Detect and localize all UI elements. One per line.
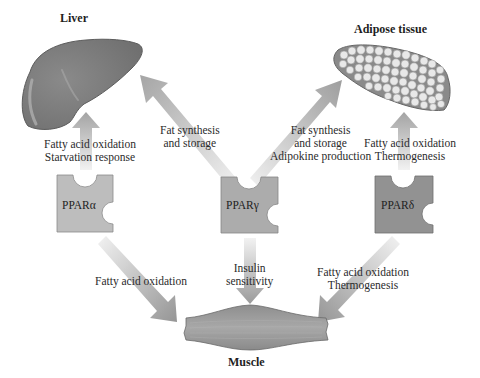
effect-line: Starvation response <box>44 151 136 164</box>
effect-gamma-to-adipose: Fat synthesis and storage Adipokine prod… <box>270 124 371 163</box>
effect-alpha-to-liver: Fatty acid oxidation Starvation response <box>44 138 136 164</box>
effect-gamma-to-muscle: Insulin sensitivity <box>226 262 273 288</box>
effect-line: Fat synthesis <box>270 124 371 137</box>
effect-alpha-to-muscle: Fatty acid oxidation <box>95 275 187 288</box>
effect-line: Thermogenesis <box>364 150 456 163</box>
effect-line: Thermogenesis <box>317 279 409 292</box>
muscle-illustration <box>184 305 328 350</box>
effect-line: Fatty acid oxidation <box>95 275 187 288</box>
effect-line: and storage <box>270 137 371 150</box>
liver-title: Liver <box>60 11 88 26</box>
muscle-title: Muscle <box>228 355 265 370</box>
liver-illustration <box>22 39 142 129</box>
effect-line: sensitivity <box>226 275 273 288</box>
adipose-title: Adipose tissue <box>354 22 427 37</box>
ppar-tissue-diagram: Liver Adipose tissue Muscle PPARα PPARγ … <box>0 0 480 378</box>
effect-line: Fatty acid oxidation <box>44 138 136 151</box>
adipose-tissue-illustration <box>334 45 450 111</box>
ppar-gamma-label: PPARγ <box>226 199 259 211</box>
effect-delta-to-adipose: Fatty acid oxidation Thermogenesis <box>364 137 456 163</box>
effect-delta-to-muscle: Fatty acid oxidation Thermogenesis <box>317 266 409 292</box>
effect-line: and storage <box>160 137 220 150</box>
effect-line: Fat synthesis <box>160 124 220 137</box>
effect-line: Fatty acid oxidation <box>317 266 409 279</box>
effect-line: Fatty acid oxidation <box>364 137 456 150</box>
ppar-alpha-label: PPARα <box>62 199 96 211</box>
effect-line: Insulin <box>226 262 273 275</box>
effect-line: Adipokine production <box>270 150 371 163</box>
effect-gamma-to-liver: Fat synthesis and storage <box>160 124 220 150</box>
ppar-delta-label: PPARδ <box>381 199 414 211</box>
